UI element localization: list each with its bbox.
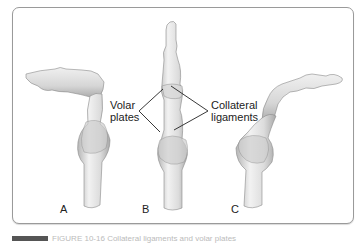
collateral-label-line1: Collateral [211, 99, 258, 111]
finger-illustrations [0, 0, 364, 243]
volar-plates-label: Volar plates [110, 99, 139, 123]
caption-text: FIGURE 10-16 Collateral ligaments and vo… [52, 234, 236, 243]
caption-marker [12, 236, 48, 241]
finger-c-illustration [236, 74, 342, 208]
collateral-ligaments-label: Collateral ligaments [211, 99, 258, 123]
volar-label-line2: plates [110, 111, 139, 123]
panel-label-a: A [60, 203, 67, 215]
panel-label-b: B [142, 203, 149, 215]
finger-a-illustration [26, 68, 110, 208]
collateral-label-line2: ligaments [211, 111, 258, 123]
panel-label-c: C [231, 203, 239, 215]
finger-b-illustration [158, 21, 188, 210]
figure-caption: FIGURE 10-16 Collateral ligaments and vo… [12, 233, 364, 243]
volar-label-line1: Volar [110, 99, 139, 111]
volar-plates-leader [139, 89, 163, 132]
